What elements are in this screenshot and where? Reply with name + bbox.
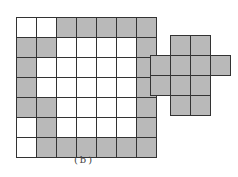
figure-caption: (b) (70, 154, 98, 165)
shaded-cell (136, 117, 157, 138)
shaded-cell (170, 75, 191, 96)
blank-space (150, 95, 171, 116)
left-grid (16, 17, 156, 157)
empty-cell (116, 97, 137, 118)
right-shape (150, 35, 230, 115)
blank-space (210, 95, 231, 116)
shaded-cell (116, 17, 137, 38)
empty-cell (76, 117, 97, 138)
empty-cell (96, 37, 117, 58)
empty-cell (76, 97, 97, 118)
shaded-cell (96, 17, 117, 38)
empty-cell (116, 37, 137, 58)
shaded-cell (96, 137, 117, 158)
blank-space (210, 35, 231, 56)
empty-cell (36, 17, 57, 38)
shaded-cell (150, 75, 171, 96)
shaded-cell (210, 55, 231, 76)
shaded-cell (56, 17, 77, 38)
empty-cell (76, 57, 97, 78)
shaded-cell (16, 37, 37, 58)
shaded-cell (190, 55, 211, 76)
shaded-cell (36, 137, 57, 158)
shaded-cell (136, 137, 157, 158)
shaded-cell (170, 35, 191, 56)
empty-cell (56, 77, 77, 98)
empty-cell (96, 97, 117, 118)
shaded-cell (16, 97, 37, 118)
shaded-cell (190, 75, 211, 96)
empty-cell (76, 77, 97, 98)
shaded-cell (116, 137, 137, 158)
empty-cell (56, 37, 77, 58)
empty-cell (56, 97, 77, 118)
empty-cell (116, 117, 137, 138)
empty-cell (16, 137, 37, 158)
empty-cell (56, 57, 77, 78)
empty-cell (36, 57, 57, 78)
blank-space (150, 35, 171, 56)
empty-cell (116, 77, 137, 98)
shaded-cell (170, 95, 191, 116)
shaded-cell (36, 37, 57, 58)
empty-cell (96, 57, 117, 78)
empty-cell (16, 17, 37, 38)
shaded-cell (170, 55, 191, 76)
shaded-cell (190, 35, 211, 56)
shaded-cell (150, 55, 171, 76)
empty-cell (76, 37, 97, 58)
blank-space (210, 75, 231, 96)
empty-cell (96, 77, 117, 98)
shaded-cell (36, 117, 57, 138)
empty-cell (16, 117, 37, 138)
empty-cell (116, 57, 137, 78)
shaded-cell (190, 95, 211, 116)
empty-cell (56, 117, 77, 138)
shaded-cell (16, 57, 37, 78)
empty-cell (36, 77, 57, 98)
shaded-cell (16, 77, 37, 98)
shaded-cell (76, 17, 97, 38)
shaded-cell (36, 97, 57, 118)
empty-cell (96, 117, 117, 138)
